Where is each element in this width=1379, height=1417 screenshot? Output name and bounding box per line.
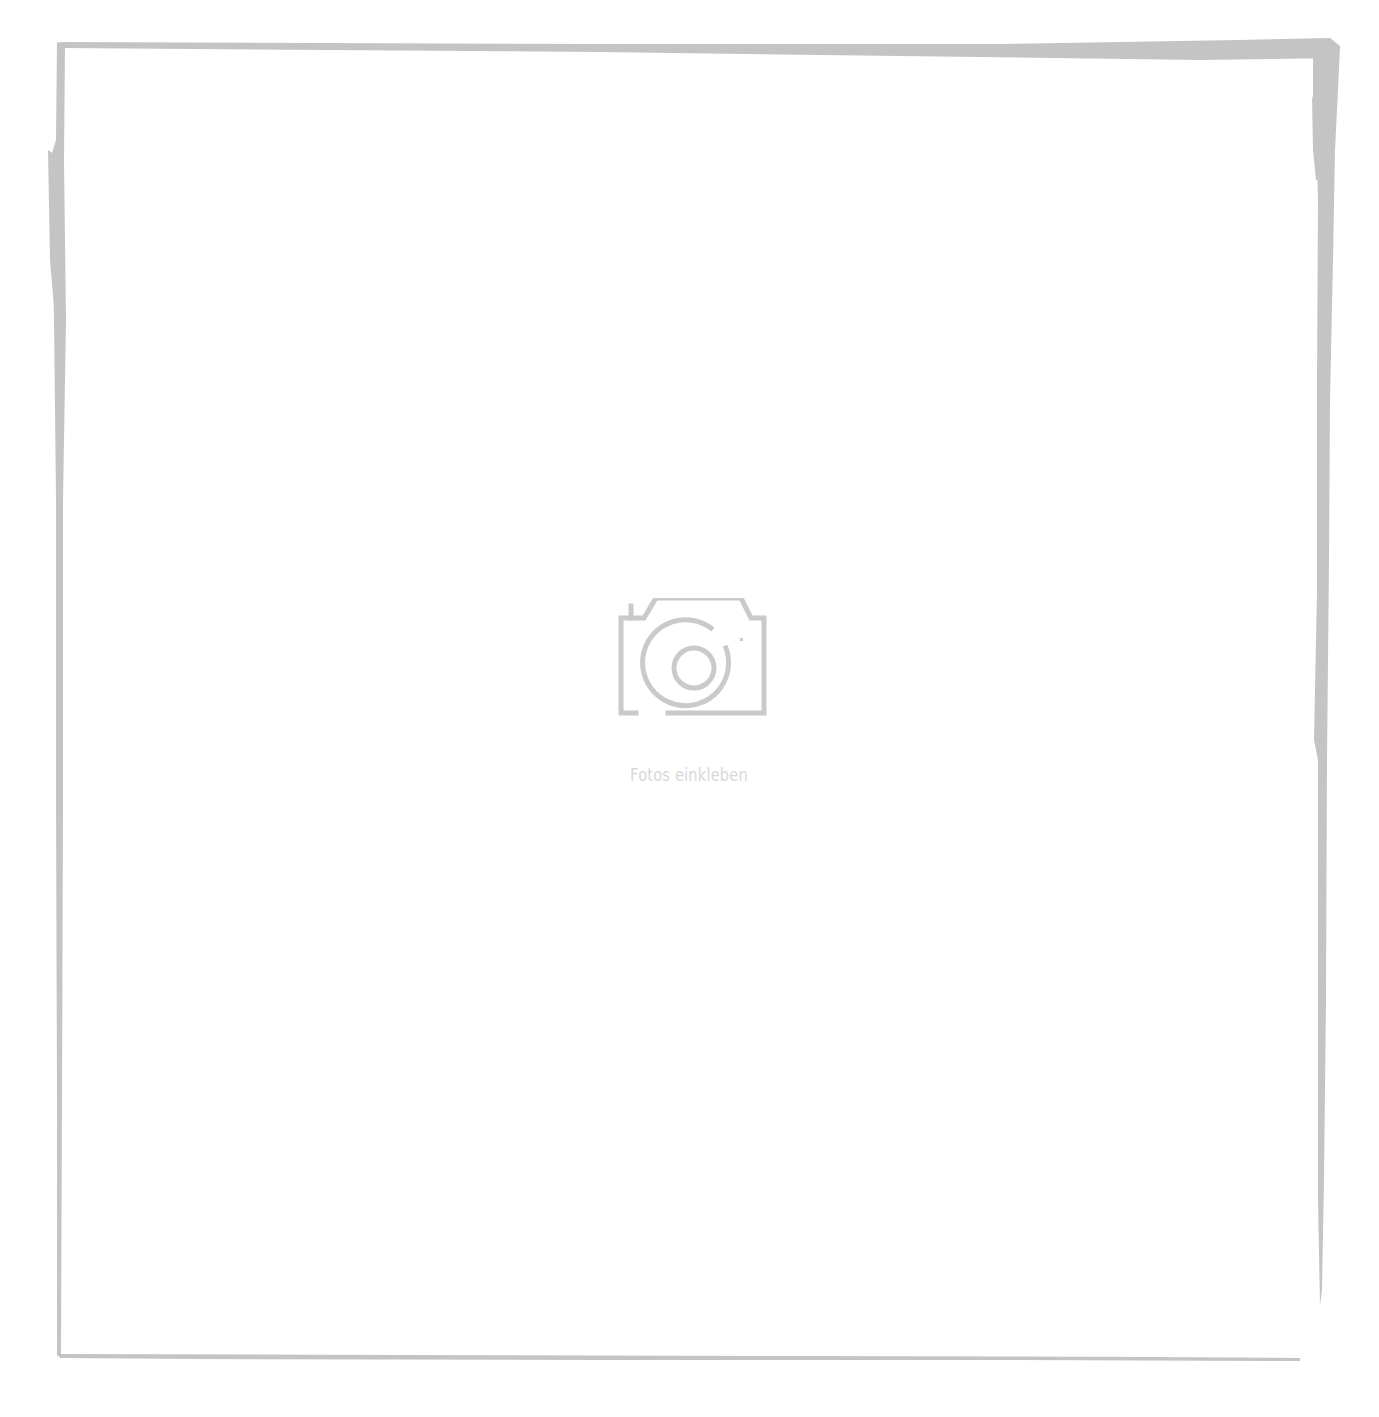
photo-drop-zone[interactable] xyxy=(62,46,1322,1356)
